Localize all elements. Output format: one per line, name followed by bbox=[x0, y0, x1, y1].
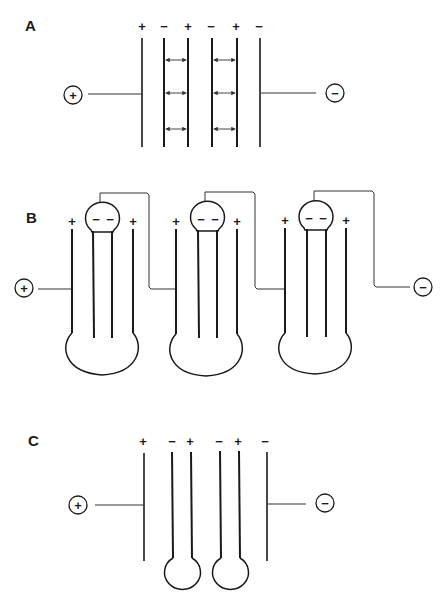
cell-3: + − − + bbox=[279, 201, 352, 374]
panel-label-a: A bbox=[25, 17, 36, 34]
top-bulb bbox=[299, 201, 333, 230]
svg-text:−: − bbox=[211, 212, 219, 227]
top-bulb bbox=[191, 201, 225, 231]
cell-1: + − − + bbox=[66, 202, 139, 375]
negative-terminal-icon: − bbox=[414, 278, 432, 296]
svg-text:−: − bbox=[319, 211, 327, 226]
panel-c-signs: + − + − + − bbox=[139, 434, 269, 449]
cell-2: + − − + bbox=[170, 201, 243, 376]
sign-plate-4: − bbox=[207, 19, 215, 34]
sign-plate-2: − bbox=[160, 19, 168, 34]
svg-text:+: + bbox=[342, 213, 350, 228]
svg-text:−: − bbox=[168, 434, 176, 449]
svg-text:+: + bbox=[172, 214, 180, 229]
bottom-loop bbox=[66, 333, 139, 375]
panel-c: C + − + − + − + − bbox=[28, 432, 334, 589]
negative-terminal-icon: − bbox=[326, 84, 344, 102]
bottom-loop-1 bbox=[165, 558, 201, 589]
electrode-diagram: A + − + − + − bbox=[0, 0, 445, 597]
bottom-loop bbox=[279, 333, 352, 374]
panel-a: A + − + − + − bbox=[25, 17, 344, 147]
svg-text:−: − bbox=[215, 434, 223, 449]
bottom-loop-2 bbox=[212, 558, 248, 589]
bottom-loop bbox=[170, 334, 243, 376]
panel-b: B + − − + + − − bbox=[15, 191, 432, 376]
field-arrows-left bbox=[166, 60, 186, 129]
svg-text:+: + bbox=[20, 281, 28, 296]
field-arrows-right bbox=[214, 60, 235, 129]
svg-text:+: + bbox=[233, 214, 241, 229]
sign-plate-6: − bbox=[255, 19, 263, 34]
svg-text:+: + bbox=[129, 214, 137, 229]
svg-text:−: − bbox=[197, 212, 205, 227]
sign-plate-1: + bbox=[138, 19, 146, 34]
positive-terminal-icon: + bbox=[69, 496, 87, 514]
panel-a-signs: + − + − + − bbox=[138, 19, 263, 34]
panel-label-c: C bbox=[28, 432, 39, 449]
svg-text:−: − bbox=[321, 496, 329, 511]
svg-text:+: + bbox=[74, 498, 82, 513]
svg-text:−: − bbox=[106, 212, 114, 227]
svg-text:+: + bbox=[281, 213, 289, 228]
svg-text:+: + bbox=[186, 434, 194, 449]
positive-terminal-icon: + bbox=[15, 279, 33, 297]
svg-text:+: + bbox=[139, 434, 147, 449]
svg-text:−: − bbox=[419, 280, 427, 295]
plate-5 bbox=[239, 451, 240, 558]
svg-text:+: + bbox=[69, 88, 77, 103]
plate-3 bbox=[191, 452, 192, 558]
svg-text:−: − bbox=[261, 434, 269, 449]
negative-terminal-icon: − bbox=[316, 494, 334, 512]
svg-text:−: − bbox=[331, 86, 339, 101]
plate-2 bbox=[172, 452, 173, 558]
plate-4 bbox=[220, 451, 221, 558]
top-bulb bbox=[86, 202, 120, 232]
sign-plate-3: + bbox=[184, 19, 192, 34]
sign-plate-5: + bbox=[232, 19, 240, 34]
svg-text:+: + bbox=[68, 214, 76, 229]
svg-text:+: + bbox=[234, 434, 242, 449]
svg-text:−: − bbox=[92, 212, 100, 227]
panel-label-b: B bbox=[26, 209, 37, 226]
svg-text:−: − bbox=[305, 211, 313, 226]
positive-terminal-icon: + bbox=[64, 86, 82, 104]
